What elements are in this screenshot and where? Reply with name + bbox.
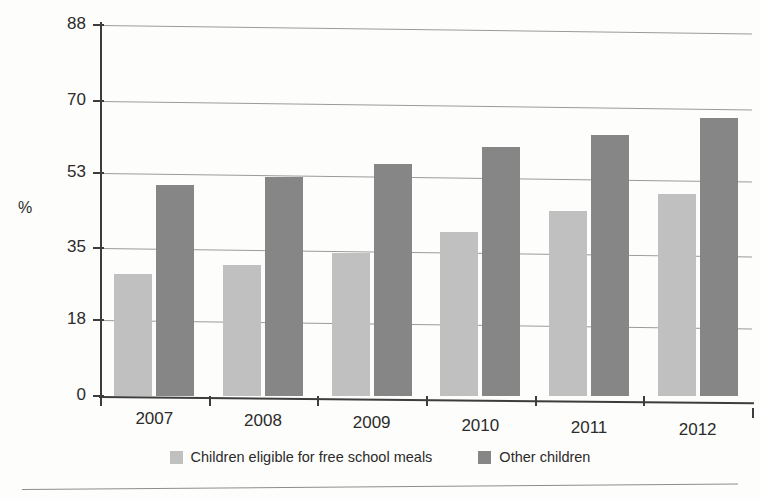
y-axis-tick-label: 0 bbox=[46, 386, 86, 403]
y-axis-tick-label: 70 bbox=[46, 91, 86, 108]
bar-group bbox=[100, 25, 209, 396]
bar-group bbox=[209, 25, 318, 396]
x-axis-tick-label: 2008 bbox=[223, 411, 303, 431]
y-axis-tick-mark bbox=[93, 24, 104, 26]
bottom-divider bbox=[22, 483, 738, 490]
x-axis-tick-label: 2009 bbox=[332, 413, 412, 433]
bar bbox=[156, 185, 194, 396]
x-axis-tick-mark bbox=[535, 396, 537, 406]
legend-item: Other children bbox=[478, 449, 590, 465]
bar bbox=[482, 147, 520, 396]
y-axis-tick-label: 53 bbox=[46, 163, 86, 180]
chart-legend: Children eligible for free school mealsO… bbox=[0, 449, 760, 465]
bar bbox=[549, 211, 587, 397]
x-axis-tick-mark bbox=[100, 396, 102, 406]
bar-group bbox=[535, 25, 644, 396]
bar bbox=[591, 135, 629, 396]
bar bbox=[374, 164, 412, 396]
bar-chart: % 01835537088 200720082009201020112012 C… bbox=[0, 0, 760, 499]
y-axis-tick-mark bbox=[93, 395, 104, 397]
y-axis-tick-mark bbox=[93, 247, 104, 249]
y-axis-tick-mark bbox=[93, 172, 104, 174]
legend-label: Other children bbox=[499, 449, 590, 465]
bar-group bbox=[643, 25, 752, 396]
bar bbox=[658, 194, 696, 396]
y-axis-tick-label: 18 bbox=[46, 310, 86, 327]
y-axis-tick-label: 35 bbox=[46, 238, 86, 255]
x-axis-tick-label: 2010 bbox=[440, 416, 520, 436]
x-axis-tick-mark bbox=[752, 408, 754, 418]
bar bbox=[700, 118, 738, 396]
bar bbox=[265, 177, 303, 396]
bar bbox=[114, 274, 152, 396]
y-axis-tick-label: 88 bbox=[46, 15, 86, 32]
x-axis-tick-mark bbox=[317, 396, 319, 406]
legend-swatch-icon bbox=[170, 451, 183, 464]
x-axis-tick-label: 2007 bbox=[114, 409, 194, 429]
x-axis-tick-label: 2011 bbox=[549, 418, 629, 438]
x-axis-tick-label: 2012 bbox=[658, 420, 738, 440]
legend-swatch-icon bbox=[478, 451, 491, 464]
bar bbox=[223, 265, 261, 396]
y-axis-labels: 01835537088 bbox=[0, 0, 86, 430]
bar bbox=[440, 232, 478, 396]
bar bbox=[332, 253, 370, 396]
x-axis-tick-mark bbox=[643, 396, 645, 406]
x-axis-tick-mark bbox=[426, 396, 428, 406]
bar-group bbox=[317, 25, 426, 396]
legend-item: Children eligible for free school meals bbox=[170, 449, 433, 465]
legend-label: Children eligible for free school meals bbox=[191, 449, 433, 465]
x-axis-tick-mark bbox=[209, 396, 211, 406]
plot-area bbox=[100, 25, 752, 396]
y-axis-tick-mark bbox=[93, 100, 104, 102]
y-axis-tick-mark bbox=[93, 319, 104, 321]
bar-group bbox=[426, 25, 535, 396]
